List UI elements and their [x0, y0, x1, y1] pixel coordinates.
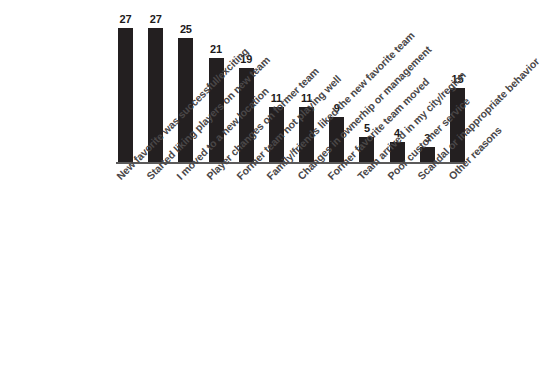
bar-group[interactable]: 27 — [118, 28, 133, 162]
bar-value-label: 25 — [180, 24, 192, 35]
bar-value-label: 27 — [120, 14, 132, 25]
bar-value-label: 27 — [150, 14, 162, 25]
bar-rect[interactable] — [118, 28, 133, 162]
bar-value-label: 21 — [210, 44, 222, 55]
